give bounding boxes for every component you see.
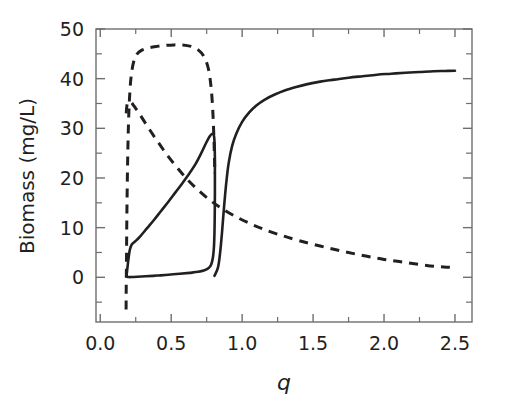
- y-tick-label: 0: [72, 266, 84, 288]
- x-tick-label: 2.0: [369, 332, 399, 354]
- y-tick-label: 40: [60, 68, 84, 90]
- y-tick-label: 20: [60, 167, 84, 189]
- curve-unstable-lower-branch: [126, 101, 455, 267]
- curve-stable-upper-branch: [214, 71, 454, 276]
- y-tick-label: 10: [60, 217, 84, 239]
- curve-unstable-upper-branch: [126, 45, 215, 310]
- y-axis-title: Biomass (mg/L): [15, 98, 39, 254]
- y-axis-major-ticks: [96, 29, 472, 277]
- curve-cycle-minimum-branch: [127, 173, 215, 277]
- x-tick-label: 2.5: [440, 332, 470, 354]
- bifurcation-plot: 0.00.51.01.52.02.5 01020304050 q Biomass…: [0, 0, 512, 408]
- y-tick-label: 50: [60, 18, 84, 40]
- x-axis-minor-ticks: [136, 29, 420, 322]
- chart-figure: 0.00.51.01.52.02.5 01020304050 q Biomass…: [0, 0, 512, 408]
- plot-curves: [126, 45, 455, 310]
- x-axis-tick-labels: 0.00.51.01.52.02.5: [85, 332, 470, 354]
- x-tick-label: 1.5: [298, 332, 328, 354]
- y-tick-label: 30: [60, 117, 84, 139]
- x-axis-title: q: [277, 370, 291, 395]
- curve-cycle-maximum-branch: [127, 134, 215, 276]
- x-tick-label: 0.0: [85, 332, 115, 354]
- x-tick-label: 1.0: [227, 332, 257, 354]
- y-axis-tick-labels: 01020304050: [60, 18, 84, 288]
- x-tick-label: 0.5: [156, 332, 186, 354]
